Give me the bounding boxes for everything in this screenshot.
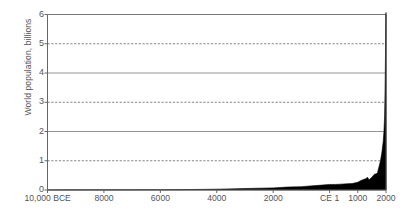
x-tick-label-7: 2000	[377, 194, 396, 203]
x-tick-label-1: 8000	[94, 194, 113, 203]
x-tick-label-5: CE 1	[320, 194, 339, 203]
x-tick-label-3: 4000	[207, 194, 226, 203]
x-tick-label-2: 6000	[151, 194, 170, 203]
x-tick-label-4: 2000	[264, 194, 283, 203]
x-tick-label-6: 1000	[348, 194, 367, 203]
world-population-chart: World population, billions 0123456 10,00…	[0, 0, 411, 216]
x-axis-tick-labels: 10,000 BCE8000600040002000CE 110002000	[0, 0, 411, 216]
x-tick-label-0: 10,000 BCE	[25, 194, 71, 203]
